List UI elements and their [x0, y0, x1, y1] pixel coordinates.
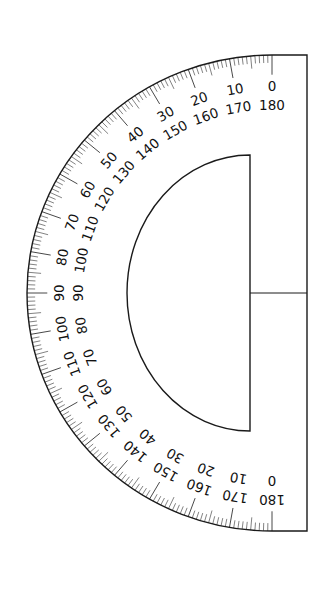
tick-mark — [225, 59, 227, 67]
tick-mark — [108, 464, 113, 470]
tick-mark — [192, 68, 195, 75]
protractor: 0102030405060708090100110120130140150160… — [0, 0, 327, 602]
tick-mark — [28, 317, 36, 318]
tick-mark — [125, 103, 130, 109]
tick-mark — [32, 248, 40, 250]
tick-mark — [32, 244, 40, 246]
tick-mark — [142, 488, 146, 495]
tick-mark — [111, 113, 116, 119]
tick-mark — [33, 239, 41, 241]
tick-mark — [29, 260, 37, 261]
tick-mark — [204, 514, 206, 522]
tick-mark — [45, 379, 53, 382]
tick-mark — [118, 108, 123, 114]
outer-degree-label: 90 — [51, 284, 67, 301]
tick-mark — [229, 508, 233, 527]
tick-mark — [28, 272, 41, 273]
tick-mark — [111, 467, 116, 473]
tick-mark — [142, 91, 146, 98]
tick-mark — [48, 196, 55, 199]
tick-mark — [135, 484, 140, 491]
tick-mark — [246, 522, 247, 530]
tick-mark — [38, 360, 46, 362]
tick-mark — [153, 494, 157, 501]
tick-mark — [221, 518, 223, 526]
tick-mark — [67, 163, 74, 167]
tick-mark — [99, 452, 108, 461]
tick-mark — [209, 63, 212, 75]
outer-degree-label: 10 — [225, 80, 245, 99]
tick-mark — [184, 71, 187, 78]
tick-mark — [46, 383, 53, 386]
tick-mark — [64, 167, 71, 171]
tick-mark — [56, 401, 63, 405]
tick-mark — [60, 402, 78, 412]
tick-mark — [60, 174, 78, 184]
tick-mark — [251, 517, 252, 530]
inner-cutout-outline — [127, 155, 250, 431]
tick-mark — [108, 116, 113, 122]
tick-mark — [39, 364, 47, 366]
tick-mark — [87, 137, 93, 142]
tick-mark — [29, 325, 37, 326]
tick-mark — [31, 252, 51, 255]
tick-mark — [165, 500, 169, 507]
tick-mark — [221, 60, 223, 68]
tick-mark — [28, 268, 36, 269]
tick-mark — [50, 388, 62, 393]
tick-mark — [90, 134, 96, 139]
tick-mark — [118, 472, 123, 478]
tick-mark — [56, 181, 63, 185]
tick-mark — [153, 85, 157, 92]
inner-degree-label: 80 — [72, 316, 91, 336]
tick-mark — [64, 415, 71, 419]
tick-mark — [105, 461, 111, 467]
tick-mark — [213, 62, 215, 70]
tick-mark — [238, 521, 239, 529]
tick-mark — [28, 309, 36, 310]
tick-mark — [176, 74, 179, 81]
tick-mark — [135, 96, 140, 103]
tick-mark — [204, 64, 206, 72]
tick-mark — [31, 331, 51, 334]
tick-mark — [38, 223, 46, 225]
tick-mark — [62, 412, 69, 416]
tick-mark — [229, 59, 233, 78]
tick-mark — [40, 216, 48, 219]
tick-mark — [87, 444, 93, 449]
outer-degree-label: 70 — [61, 211, 82, 233]
tick-mark — [69, 160, 76, 164]
tick-mark — [255, 56, 256, 64]
tick-mark — [82, 143, 88, 148]
tick-mark — [234, 520, 235, 528]
tick-mark — [32, 341, 40, 343]
inner-degree-label: 170 — [224, 98, 252, 118]
tick-mark — [43, 208, 51, 211]
tick-mark — [157, 83, 161, 90]
tick-mark — [30, 256, 38, 257]
tick-mark — [225, 519, 227, 527]
tick-mark — [217, 517, 219, 525]
tick-mark — [42, 212, 61, 219]
tick-mark — [168, 77, 174, 89]
tick-mark — [96, 128, 102, 133]
tick-mark — [36, 356, 44, 358]
tick-mark — [139, 486, 143, 493]
tick-mark — [93, 450, 99, 455]
tick-mark — [93, 131, 99, 136]
tick-mark — [139, 93, 143, 100]
outer-degree-label: 170 — [221, 487, 249, 507]
tick-mark — [217, 61, 219, 69]
tick-mark — [54, 185, 61, 189]
tick-mark — [102, 122, 108, 128]
tick-mark — [255, 523, 256, 531]
tick-mark — [35, 231, 48, 234]
tick-mark — [128, 479, 133, 485]
tick-mark — [196, 512, 199, 519]
inner-degree-label: 10 — [228, 469, 248, 488]
tick-mark — [180, 506, 183, 513]
tick-mark — [161, 81, 165, 88]
tick-mark — [188, 498, 195, 517]
tick-mark — [105, 119, 111, 125]
tick-mark — [238, 57, 239, 65]
